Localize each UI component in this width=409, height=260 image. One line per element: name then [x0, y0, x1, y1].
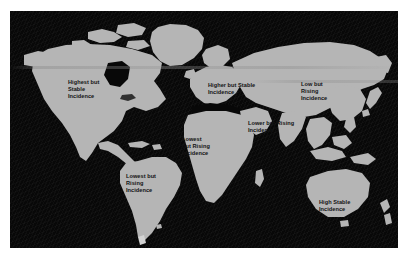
- region-label-europe: Higher but Stable Incidence: [208, 82, 255, 96]
- landmass-indonesia: [310, 147, 346, 161]
- landmass-south-america: [120, 157, 182, 241]
- landmass-new-zealand: [380, 199, 390, 213]
- landmass-southeast-asia: [306, 117, 332, 149]
- world-map-figure: Highest but Stable Incidence Higher but …: [0, 0, 409, 260]
- region-label-oceania: High Stable Incidence: [319, 199, 350, 213]
- landmass-arctic-islands-2: [116, 23, 146, 37]
- landmass-east-china: [328, 85, 366, 121]
- landmass-madagascar: [255, 169, 264, 187]
- landmass-arctic-islands-4: [126, 40, 150, 50]
- region-label-east-asia: Low but Rising Incidence: [301, 81, 327, 103]
- landmass-borneo: [332, 135, 352, 149]
- landmass-caribbean-2: [152, 144, 162, 150]
- landmass-scandinavia: [202, 45, 230, 69]
- landmass-caribbean: [128, 141, 150, 148]
- landmass-new-zealand-2: [384, 213, 392, 225]
- landmass-eurasia: [232, 42, 388, 117]
- region-label-north-america: Highest but Stable Incidence: [68, 79, 99, 101]
- region-label-south-asia: Lower but Rising Incidence: [248, 120, 294, 134]
- region-label-south-america: Lowest but Rising Incidence: [126, 173, 156, 195]
- region-label-africa: Lowest but Rising Incidence: [182, 136, 210, 158]
- landmass-japan: [366, 87, 382, 109]
- map-canvas: Highest but Stable Incidence Higher but …: [10, 11, 398, 248]
- landmass-new-guinea: [350, 153, 376, 165]
- landmass-japan-2: [362, 109, 370, 117]
- landmass-tasmania: [340, 220, 349, 227]
